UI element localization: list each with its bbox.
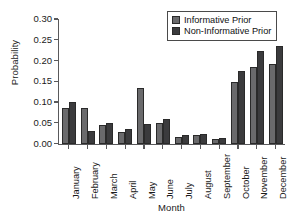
x-axis-tick-label: January — [72, 166, 81, 199]
bar — [137, 88, 144, 144]
bar — [276, 46, 283, 144]
x-axis-tick — [219, 145, 220, 149]
bar — [163, 119, 170, 144]
x-axis-tick — [143, 145, 144, 149]
y-axis-tick-label: 0.10 — [4, 97, 52, 107]
y-axis-tick-label: 0.25 — [4, 35, 52, 45]
x-axis-tick — [162, 145, 163, 149]
bar-group — [78, 19, 97, 144]
legend-swatch-icon — [172, 16, 180, 24]
x-axis-tick-label: October — [242, 166, 251, 199]
bar — [182, 135, 189, 143]
bar — [106, 123, 113, 144]
bar — [88, 131, 95, 143]
x-axis-tick-label: June — [166, 179, 175, 199]
bar — [62, 108, 69, 143]
y-axis-tick-label: 0.05 — [4, 118, 52, 128]
legend-swatch-icon — [172, 27, 180, 35]
x-axis-tick-label: August — [204, 170, 213, 199]
x-axis-tick-labels: JanuaryFebruaryMarchAprilMayJuneJulyAugu… — [58, 151, 285, 201]
y-axis-tick-label: 0.30 — [4, 14, 52, 24]
y-axis-tick — [54, 18, 59, 19]
x-axis-tick-label: November — [260, 157, 269, 199]
legend-item: Non-Informative Prior — [172, 26, 271, 37]
bar-group — [97, 19, 116, 144]
x-axis-tick-label: April — [129, 181, 138, 199]
x-axis-tick — [181, 145, 182, 149]
y-axis-tick — [54, 81, 59, 82]
bar — [118, 132, 125, 144]
x-axis-tick-label: September — [223, 154, 232, 199]
bar — [219, 138, 226, 144]
bar — [238, 71, 245, 144]
bar-group — [116, 19, 135, 144]
y-axis-tick — [54, 143, 59, 144]
legend-item: Informative Prior — [172, 15, 271, 26]
x-axis-tick — [87, 145, 88, 149]
bar — [156, 123, 163, 143]
x-axis-tick — [125, 145, 126, 149]
y-axis-tick-label: 0.00 — [4, 139, 52, 149]
x-axis-tick — [106, 145, 107, 149]
x-axis-tick-label: July — [185, 183, 194, 199]
x-axis-tick-label: March — [110, 173, 119, 199]
x-axis-tick — [68, 145, 69, 149]
bar — [250, 67, 257, 144]
bar-group — [135, 19, 154, 144]
y-axis-tick — [54, 101, 59, 102]
bar — [257, 51, 264, 144]
bar — [200, 134, 207, 143]
x-axis-tick — [237, 145, 238, 149]
x-axis-tick — [200, 145, 201, 149]
legend: Informative Prior Non-Informative Prior — [167, 11, 277, 41]
y-axis-tick — [54, 122, 59, 123]
bar-chart: Probability 0.000.050.100.150.200.250.30… — [0, 0, 293, 221]
bar — [99, 125, 106, 144]
legend-label: Non-Informative Prior — [184, 26, 271, 36]
bar — [125, 129, 132, 144]
legend-label: Informative Prior — [184, 15, 251, 25]
bar — [144, 124, 151, 144]
x-axis-tick-label: May — [148, 182, 157, 199]
bar — [81, 108, 88, 143]
x-axis-tick-label: February — [91, 162, 100, 199]
y-axis-tick — [54, 39, 59, 40]
bar — [175, 137, 182, 144]
x-axis-tick — [256, 145, 257, 149]
bar-group — [59, 19, 78, 144]
x-axis-tick — [275, 145, 276, 149]
y-axis-tick — [54, 60, 59, 61]
bar — [231, 82, 238, 144]
bar — [269, 64, 276, 143]
x-axis-title: Month — [58, 202, 285, 213]
y-axis-tick-labels: 0.000.050.100.150.200.250.30 — [4, 0, 52, 221]
bar — [212, 139, 219, 144]
bar — [69, 102, 76, 144]
x-axis-tick-label: December — [279, 157, 288, 199]
y-axis-tick-label: 0.15 — [4, 76, 52, 86]
y-axis-tick-label: 0.20 — [4, 56, 52, 66]
bar — [193, 135, 200, 143]
